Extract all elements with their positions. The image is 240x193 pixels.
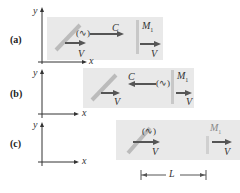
velocity-label-a1: V	[78, 48, 84, 59]
x-axis-label-a: x	[89, 55, 93, 66]
panel-label-a: (a)	[10, 34, 22, 45]
distance-label-l: L	[169, 168, 175, 179]
panel-b: (b) y x C (∿) V M1 V	[0, 66, 240, 116]
velocity-label-b2: V	[186, 96, 192, 107]
mirror-label-b: M1	[177, 70, 188, 83]
light-speed-label-a: C	[112, 22, 119, 33]
light-speed-label-b: C	[128, 71, 135, 82]
panel-a: (a) y x (∿) C V M1 V	[0, 0, 240, 66]
mirror-label-c: M1	[210, 122, 221, 135]
y-axis-label-c: y	[33, 119, 37, 130]
velocity-label-c1: V	[152, 146, 158, 157]
y-axis-label-b: y	[33, 67, 37, 78]
wave-symbol-a: (∿)	[76, 28, 90, 38]
velocity-label-a2: V	[151, 48, 157, 59]
panel-c: (c) y x (∿) V M1 V L	[0, 116, 240, 193]
velocity-label-c2: V	[224, 146, 230, 157]
wave-symbol-b: (∿)	[156, 78, 170, 88]
panel-label-c: (c)	[10, 138, 21, 149]
velocity-label-b1: V	[114, 96, 120, 107]
x-axis-label-c: x	[82, 155, 86, 166]
wave-symbol-c: (∿)	[142, 126, 156, 136]
y-axis-label-a: y	[33, 5, 37, 16]
mirror-label-a: M1	[142, 20, 153, 33]
panel-label-b: (b)	[10, 88, 22, 99]
